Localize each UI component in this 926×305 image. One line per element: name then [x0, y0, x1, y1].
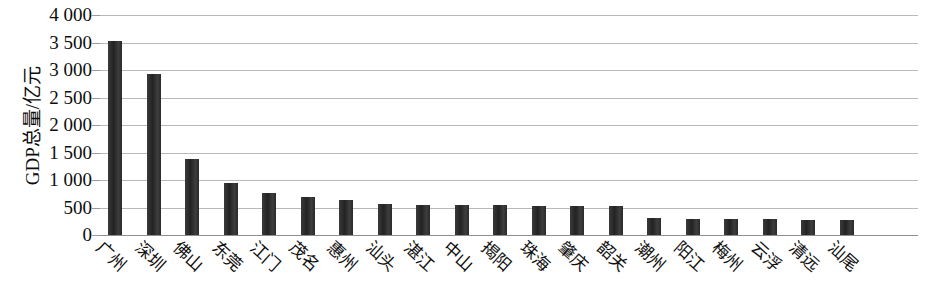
- y-axis-tickmark: [92, 180, 100, 181]
- bar: [763, 219, 777, 235]
- bar: [416, 205, 430, 235]
- x-axis-tick-label: 湛江: [400, 239, 437, 275]
- x-axis-tick-label: 珠海: [515, 239, 552, 275]
- bar: [378, 204, 392, 235]
- bar: [647, 218, 661, 235]
- x-axis-tick-labels: 广州深圳佛山东莞江门茂名惠州汕头湛江中山揭阳珠海肇庆韶关潮州阳江梅州云浮清远汕尾: [100, 239, 918, 305]
- y-axis-tickmark: [92, 15, 100, 16]
- x-axis-tick-label: 韶关: [592, 239, 629, 275]
- bar: [301, 197, 315, 235]
- y-axis-tick-label: 2 500: [8, 88, 92, 107]
- bar: [840, 220, 854, 235]
- x-axis-tick-label: 佛山: [169, 239, 206, 275]
- x-axis-tick-label: 东莞: [207, 239, 244, 275]
- y-axis-tick-label: 3 500: [8, 33, 92, 52]
- bar: [185, 159, 199, 235]
- bar: [801, 220, 815, 235]
- bar: [493, 205, 507, 235]
- bar: [724, 219, 738, 235]
- x-axis-tick-label: 潮州: [631, 239, 668, 275]
- x-axis-tick-label: 汕尾: [823, 239, 860, 275]
- gridline: [100, 235, 918, 236]
- y-axis-tick-label: 0: [8, 225, 92, 244]
- x-axis-tick-label: 广州: [92, 239, 129, 275]
- x-axis-tick-label: 茂名: [284, 239, 321, 275]
- x-axis-tick-label: 惠州: [323, 239, 360, 275]
- y-axis-tick-labels: 4 0003 5003 0002 5002 0001 5001 0005000: [0, 15, 92, 235]
- bar: [339, 200, 353, 235]
- y-axis-tickmark: [92, 43, 100, 44]
- y-axis-tickmark: [92, 235, 100, 236]
- y-axis-tick-label: 1 000: [8, 170, 92, 189]
- bars-layer: [100, 15, 918, 235]
- x-axis-tick-label: 肇庆: [554, 239, 591, 275]
- bar: [224, 183, 238, 235]
- bar: [262, 193, 276, 235]
- y-axis-tick-label: 1 500: [8, 143, 92, 162]
- x-axis-tick-label: 深圳: [130, 239, 167, 275]
- x-axis-tick-label: 揭阳: [477, 239, 514, 275]
- bar: [609, 206, 623, 235]
- x-axis-tick-label: 江门: [246, 239, 283, 275]
- y-axis-tickmark: [92, 153, 100, 154]
- x-axis-tick-label: 阳江: [669, 239, 706, 275]
- gdp-bar-chart: GDP总量/亿元 4 0003 5003 0002 5002 0001 5001…: [0, 0, 926, 305]
- x-axis-tick-label: 汕头: [361, 239, 398, 275]
- bar: [147, 74, 161, 235]
- y-axis-tickmark: [92, 98, 100, 99]
- x-axis-tick-label: 云浮: [746, 239, 783, 275]
- bar: [570, 206, 584, 235]
- plot-area: [100, 15, 918, 235]
- y-axis-tick-label: 4 000: [8, 5, 92, 24]
- x-axis-tick-label: 清远: [785, 239, 822, 275]
- bar: [686, 219, 700, 236]
- y-axis-tickmark: [92, 70, 100, 71]
- x-axis-tick-label: 中山: [438, 239, 475, 275]
- y-axis-tick-label: 500: [8, 198, 92, 217]
- bar: [455, 205, 469, 235]
- bar: [108, 41, 122, 235]
- y-axis-tick-label: 2 000: [8, 115, 92, 134]
- bar: [532, 206, 546, 235]
- y-axis-tickmark: [92, 125, 100, 126]
- y-axis-tick-label: 3 000: [8, 60, 92, 79]
- y-axis-tickmark: [92, 208, 100, 209]
- x-axis-tick-label: 梅州: [708, 239, 745, 275]
